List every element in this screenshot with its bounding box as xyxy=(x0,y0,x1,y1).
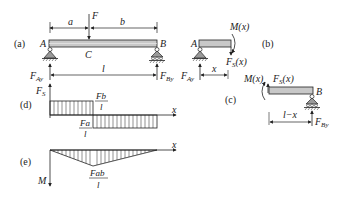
label-Fab-den: l xyxy=(97,180,100,190)
panel-c-tag: (c) xyxy=(225,94,236,106)
beam-segment-left xyxy=(199,40,231,47)
label-Fab: Fab xyxy=(89,168,105,178)
panel-b-tag: (b) xyxy=(262,38,274,50)
label-Fsx-b: FS(x) xyxy=(225,56,247,69)
panel-d-tag: (d) xyxy=(20,99,32,111)
label-x-d: x xyxy=(171,104,177,115)
panel-d-shear-diagram: (d) FS x Fb l Fa l xyxy=(20,84,177,139)
label-x-b: x xyxy=(211,63,217,74)
beam-segment-right xyxy=(269,87,313,94)
beam-diagram: (a) a b F A B C xyxy=(0,0,341,200)
shear-positive-region xyxy=(50,101,93,115)
pin-support-icon xyxy=(42,48,58,62)
label-B: B xyxy=(160,38,166,49)
label-M-axis: M xyxy=(37,175,47,186)
label-x-e: x xyxy=(171,139,177,150)
panel-a: (a) a b F A B C xyxy=(14,10,174,83)
roller-support-icon xyxy=(149,48,165,64)
label-b: b xyxy=(120,16,125,27)
label-Fa: Fa xyxy=(79,118,90,128)
panel-e-moment-diagram: (e) x M Fab l xyxy=(20,139,177,190)
panel-c: B M(x) FS(x) (c) FBy l−x xyxy=(225,73,329,129)
label-Fa-den: l xyxy=(84,129,87,139)
label-l: l xyxy=(102,63,105,74)
label-A: A xyxy=(39,38,47,49)
label-a: a xyxy=(68,16,73,27)
label-Mx-c: M(x) xyxy=(243,73,264,85)
label-Fs-axis: FS xyxy=(35,85,46,98)
label-Mx-b: M(x) xyxy=(229,21,250,33)
moment-arrow-c xyxy=(262,82,265,100)
label-Fb: Fb xyxy=(95,91,106,101)
label-Fsx-c: FS(x) xyxy=(272,73,294,86)
label-FBy: FBy xyxy=(159,70,174,83)
pin-support-icon xyxy=(192,48,208,62)
panel-e-tag: (e) xyxy=(20,156,31,168)
label-FAy: FAy xyxy=(29,70,44,83)
label-lx-c: l−x xyxy=(283,109,298,120)
label-Fb-den: l xyxy=(100,102,103,112)
panel-a-tag: (a) xyxy=(14,38,25,50)
label-B-c: B xyxy=(316,86,322,97)
label-F: F xyxy=(91,10,99,21)
label-C: C xyxy=(85,49,92,60)
moment-arrow-b xyxy=(232,34,235,53)
label-A-b: A xyxy=(190,38,198,49)
label-FAy-b: FAy xyxy=(180,70,195,83)
label-FBy-c: FBy xyxy=(314,116,329,129)
